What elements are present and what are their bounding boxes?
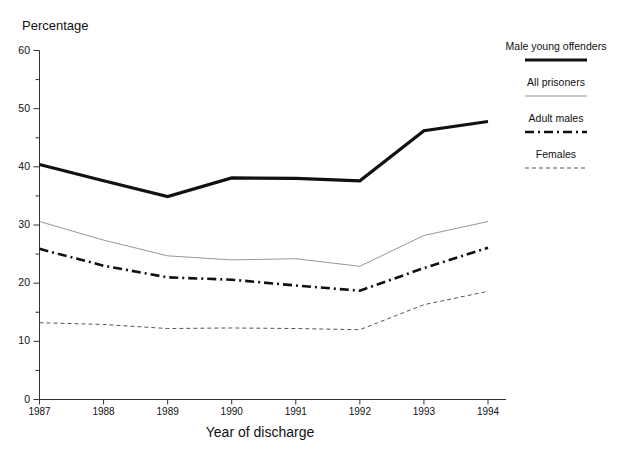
legend-label: Male young offenders <box>492 40 620 52</box>
x-tick-label: 1988 <box>81 406 127 417</box>
series-line-2 <box>40 248 489 291</box>
y-tick-label: 0 <box>0 393 30 405</box>
legend-swatch-icon <box>525 57 587 63</box>
series-line-0 <box>40 121 489 196</box>
legend-entry: Male young offenders <box>492 40 620 63</box>
legend-label: Females <box>492 148 620 160</box>
legend-entry: All prisoners <box>492 76 620 99</box>
legend-swatch-icon <box>525 129 587 135</box>
x-tick-label: 1991 <box>273 406 319 417</box>
legend-entry: Females <box>492 148 620 171</box>
x-tick-label: 1987 <box>17 406 63 417</box>
legend-label: Adult males <box>492 112 620 124</box>
legend-swatch-icon <box>525 93 587 99</box>
x-tick-label: 1994 <box>465 406 511 417</box>
y-tick-label: 30 <box>0 218 30 230</box>
x-tick-label: 1992 <box>337 406 383 417</box>
legend-entry: Adult males <box>492 112 620 135</box>
series-line-3 <box>40 291 489 329</box>
y-tick-label: 40 <box>0 160 30 172</box>
series-line-1 <box>40 222 489 267</box>
x-tick-label: 1993 <box>401 406 447 417</box>
chart-legend: Male young offendersAll prisonersAdult m… <box>492 40 620 184</box>
legend-label: All prisoners <box>492 76 620 88</box>
x-axis-title: Year of discharge <box>0 424 520 440</box>
y-tick-label: 10 <box>0 334 30 346</box>
y-tick-label: 50 <box>0 102 30 114</box>
x-tick-label: 1990 <box>209 406 255 417</box>
y-tick-label: 60 <box>0 44 30 56</box>
y-tick-label: 20 <box>0 276 30 288</box>
line-chart: Percentage 0102030405060 198719881989199… <box>0 0 621 456</box>
x-tick-label: 1989 <box>145 406 191 417</box>
legend-swatch-icon <box>525 165 587 171</box>
